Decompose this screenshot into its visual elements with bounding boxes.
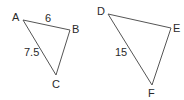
vertex-label-d: D (97, 5, 105, 17)
side-length-df: 15 (115, 46, 127, 58)
vertex-label-c: C (52, 78, 60, 90)
triangle-def: D E F 15 (97, 5, 180, 99)
vertex-label-e: E (173, 22, 180, 34)
triangle-abc: A B C 6 7.5 (12, 11, 79, 90)
vertex-label-b: B (72, 23, 79, 35)
vertex-label-f: F (148, 87, 155, 99)
triangles-diagram: A B C 6 7.5 D E F 15 (0, 0, 184, 100)
side-length-ac: 7.5 (24, 46, 39, 58)
side-length-ab: 6 (45, 12, 51, 24)
vertex-label-a: A (12, 11, 20, 23)
